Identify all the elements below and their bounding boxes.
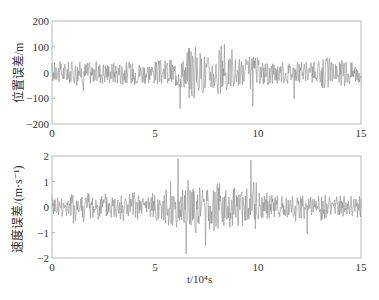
y-tick-label: −2 — [37, 252, 49, 264]
y-tick-label: 2 — [44, 150, 50, 162]
velocity-error-series — [52, 159, 361, 254]
y-tick-label: −1 — [37, 227, 49, 239]
top-x-tick-labels: 051015 — [49, 127, 367, 139]
figure: 2001000−100−200 051015 210−1−2 051015 — [0, 0, 379, 300]
y-tick-label: 0 — [44, 201, 50, 213]
y-tick-label: −200 — [26, 118, 49, 130]
top-y-tick-labels: 2001000−100−200 — [26, 15, 55, 130]
x-tick-label: 10 — [253, 127, 265, 139]
x-tick-label: 15 — [356, 261, 368, 273]
y-tick-label: 1 — [44, 176, 50, 188]
x-tick-label: 0 — [49, 261, 55, 273]
y-tick-label: 0 — [44, 67, 50, 79]
x-tick-label: 0 — [49, 127, 55, 139]
bottom-x-tick-labels: 051015 — [49, 261, 367, 273]
y-tick-label: 200 — [33, 15, 50, 27]
bottom-y-axis-label: 速度误差/(m·s⁻¹) — [8, 154, 26, 264]
x-tick-label: 5 — [152, 127, 158, 139]
position-error-series — [52, 44, 361, 108]
x-tick-label: 5 — [152, 261, 158, 273]
y-tick-label: 100 — [33, 41, 50, 53]
velocity-error-plot: 210−1−2 051015 — [37, 150, 367, 273]
x-axis-label: t/10⁴s — [187, 273, 212, 285]
position-error-plot: 2001000−100−200 051015 — [26, 15, 367, 139]
x-tick-label: 15 — [356, 127, 368, 139]
top-y-axis-label: 位置误差/m — [9, 33, 27, 113]
x-tick-label: 10 — [253, 261, 265, 273]
y-tick-label: −100 — [26, 92, 49, 104]
